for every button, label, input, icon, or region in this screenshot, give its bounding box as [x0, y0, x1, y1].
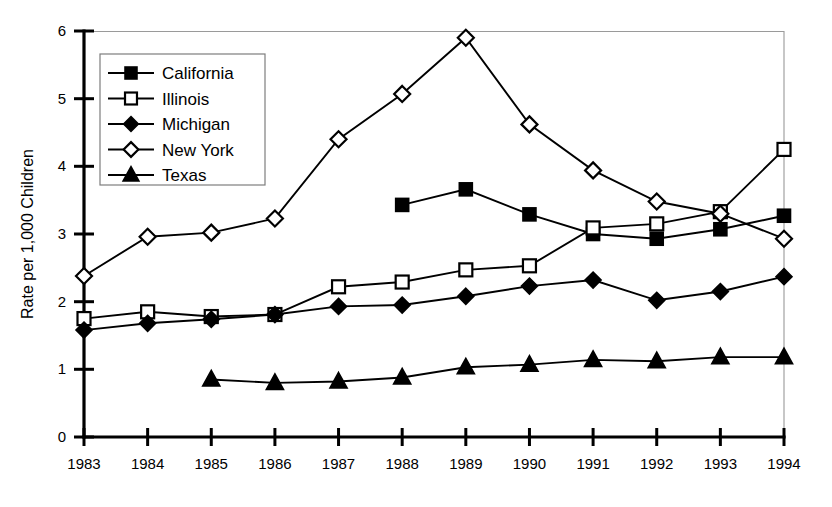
y-axis-title: Rate per 1,000 Children [19, 149, 36, 319]
marker-filled-diamond [331, 298, 347, 314]
marker-filled-triangle [203, 370, 220, 385]
y-tick-label-6: 6 [58, 22, 66, 39]
legend-label: Illinois [162, 90, 209, 109]
marker-filled-square [714, 223, 727, 236]
marker-open-diamond [585, 162, 601, 178]
marker-filled-triangle [775, 348, 792, 363]
marker-open-square [778, 143, 791, 156]
legend-label: New York [162, 141, 234, 160]
x-tick-label-1994: 1994 [767, 455, 800, 472]
marker-open-square [523, 259, 536, 272]
y-tick-label-4: 4 [58, 157, 66, 174]
y-tick-label-0: 0 [58, 428, 66, 445]
x-tick-labels: 1983198419851986198719881989199019911992… [67, 455, 800, 472]
x-tick-label-1987: 1987 [322, 455, 355, 472]
y-tick-label-1: 1 [58, 360, 66, 377]
marker-open-square [587, 221, 600, 234]
marker-filled-square [459, 183, 472, 196]
x-tick-label-1992: 1992 [640, 455, 673, 472]
legend-label: Texas [162, 166, 206, 185]
marker-open-square [332, 280, 345, 293]
marker-filled-diamond [521, 278, 537, 294]
y-tick-labels: 0 1 2 3 4 5 6 [58, 22, 66, 445]
marker-filled-triangle [712, 348, 729, 363]
y-tick-label-3: 3 [58, 225, 66, 242]
marker-open-diamond [521, 116, 537, 132]
x-tick-label-1985: 1985 [195, 455, 228, 472]
marker-filled-diamond [585, 272, 601, 288]
x-tick-label-1984: 1984 [131, 455, 164, 472]
marker-open-diamond [649, 194, 665, 210]
line-chart: 0 1 2 3 4 5 6 Rate per 1,000 Children 19… [0, 0, 832, 507]
marker-filled-diamond [776, 269, 792, 285]
marker-open-square [459, 263, 472, 276]
marker-open-square [650, 217, 663, 230]
marker-open-square [396, 276, 409, 289]
series-california [396, 183, 791, 245]
series-line [84, 277, 784, 330]
chart-figure: 0 1 2 3 4 5 6 Rate per 1,000 Children 19… [0, 0, 832, 507]
marker-open-square [125, 93, 137, 105]
marker-filled-diamond [394, 297, 410, 313]
x-tick-label-1983: 1983 [67, 455, 100, 472]
marker-open-diamond [776, 231, 792, 247]
x-tick-label-1991: 1991 [576, 455, 609, 472]
marker-filled-square [650, 232, 663, 245]
x-tick-label-1990: 1990 [513, 455, 546, 472]
marker-filled-square [125, 67, 137, 79]
series-line [211, 357, 784, 383]
marker-filled-square [396, 198, 409, 211]
series-michigan [76, 269, 792, 338]
legend-label: Michigan [162, 115, 230, 134]
series-texas [203, 348, 793, 389]
x-tick-label-1988: 1988 [385, 455, 418, 472]
marker-open-diamond [140, 229, 156, 245]
marker-filled-triangle [457, 358, 474, 373]
marker-filled-square [523, 208, 536, 221]
marker-filled-diamond [649, 292, 665, 308]
marker-filled-triangle [585, 351, 602, 366]
marker-filled-square [778, 209, 791, 222]
marker-open-diamond [203, 225, 219, 241]
marker-filled-diamond [458, 288, 474, 304]
legend-label: California [162, 64, 234, 83]
y-tick-label-2: 2 [58, 293, 66, 310]
x-tick-label-1986: 1986 [258, 455, 291, 472]
x-tick-label-1993: 1993 [704, 455, 737, 472]
marker-open-diamond [76, 268, 92, 284]
chart-legend: CaliforniaIllinoisMichiganNew YorkTexas [100, 54, 265, 185]
x-tick-label-1989: 1989 [449, 455, 482, 472]
y-tick-label-5: 5 [58, 90, 66, 107]
marker-filled-diamond [712, 284, 728, 300]
